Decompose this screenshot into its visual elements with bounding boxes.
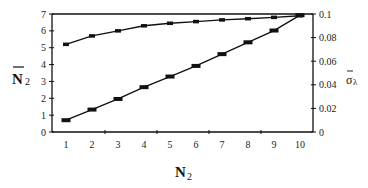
- y-tick-label: 1: [41, 110, 46, 121]
- y-axis-title-sub: 2: [25, 76, 30, 87]
- y2-tick-label: 0.06: [319, 56, 337, 67]
- data-point-marker: [89, 34, 95, 38]
- x-tick-label: 10: [295, 139, 305, 150]
- y-tick-label: 5: [41, 42, 46, 53]
- y2-tick-label: 0: [319, 127, 324, 138]
- x-axis-title-main: N: [175, 164, 186, 180]
- data-point-marker: [271, 16, 277, 20]
- data-point-marker: [245, 17, 251, 21]
- y2-axis-title: σ λ: [346, 71, 358, 87]
- data-point-marker: [219, 18, 225, 22]
- y2-tick-label: 0.02: [319, 103, 337, 114]
- x-tick-label: 8: [246, 139, 251, 150]
- data-point-marker: [193, 20, 199, 24]
- data-point-marker: [114, 97, 123, 101]
- y2-tick-label: 0.1: [319, 9, 332, 20]
- y-axis-title: N 2: [12, 67, 30, 87]
- x-tick-label: 3: [116, 139, 121, 150]
- y-tick-label: 2: [41, 93, 46, 104]
- dual-axis-line-chart: 01234567 00.020.040.060.080.1 1234567891…: [0, 0, 368, 188]
- x-tick-label: 9: [272, 139, 277, 150]
- y2-tick-label: 0.04: [319, 79, 337, 90]
- y-tick-label: 4: [41, 59, 46, 70]
- data-series: [62, 13, 305, 122]
- data-point-marker: [192, 64, 201, 68]
- y2-tick-label: 0.08: [319, 32, 337, 43]
- data-point-marker: [62, 118, 71, 122]
- x-tick-label: 7: [220, 139, 225, 150]
- data-point-marker: [115, 29, 121, 33]
- x-axis: 12345678910: [64, 130, 306, 150]
- data-point-marker: [140, 85, 149, 89]
- y-tick-label: 6: [41, 25, 46, 36]
- x-tick-label: 1: [64, 139, 69, 150]
- x-tick-label: 5: [168, 139, 173, 150]
- data-point-marker: [166, 75, 175, 79]
- x-axis-title-sub: 2: [187, 171, 192, 182]
- data-point-marker: [270, 29, 279, 33]
- data-point-marker: [88, 108, 97, 112]
- lower-series-line: [66, 15, 300, 120]
- data-point-marker: [141, 24, 147, 28]
- y-tick-label: 0: [41, 127, 46, 138]
- x-axis-title: N 2: [175, 164, 192, 182]
- data-point-marker: [296, 13, 305, 17]
- x-tick-label: 6: [194, 139, 199, 150]
- x-tick-label: 2: [90, 139, 95, 150]
- x-tick-label: 4: [142, 139, 147, 150]
- upper-series-line: [66, 16, 300, 45]
- data-point-marker: [244, 40, 253, 44]
- y2-axis-title-main: σ: [346, 73, 353, 87]
- y-tick-label: 3: [41, 76, 46, 87]
- y2-axis-title-sub: λ: [353, 77, 358, 87]
- y-tick-label: 7: [41, 9, 46, 20]
- y-axis-title-main: N: [12, 71, 23, 87]
- data-point-marker: [218, 52, 227, 56]
- data-point-marker: [63, 43, 69, 47]
- right-y-axis: 00.020.040.060.080.1: [311, 9, 337, 138]
- data-point-marker: [167, 22, 173, 26]
